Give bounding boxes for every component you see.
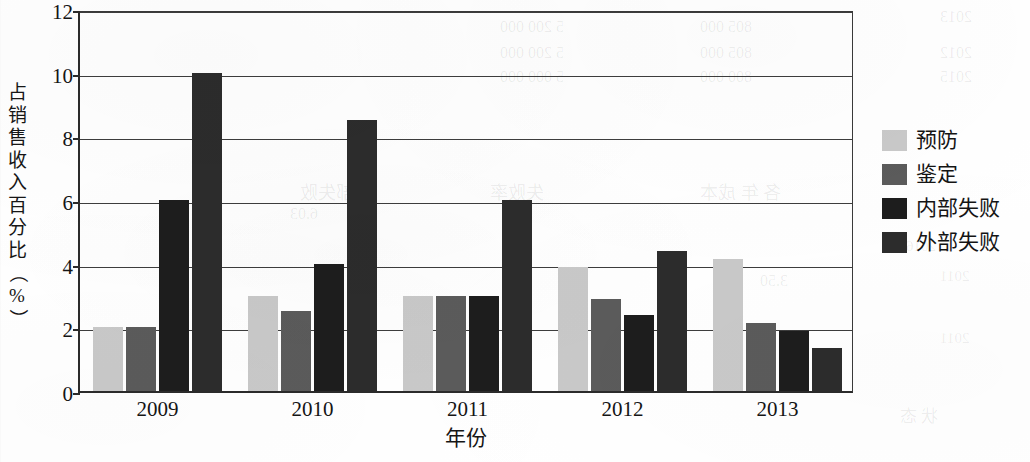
x-tick-label: 2009	[137, 399, 179, 420]
x-axis-title: 年份	[78, 428, 853, 449]
y-tick-mark	[73, 393, 80, 395]
y-tick-label: 10	[52, 65, 73, 86]
legend-swatch	[882, 232, 907, 253]
y-axis-title-char: （	[6, 258, 29, 288]
y-tick-label: 8	[63, 129, 74, 150]
bar	[436, 296, 467, 392]
bar	[713, 259, 744, 391]
y-axis-title-char: 销	[2, 105, 32, 128]
bar	[192, 73, 223, 391]
bar-chart-figure: 占销售收入百分比（%） 024681012 200920102011201220…	[0, 0, 1030, 462]
y-tick-label: 0	[63, 384, 74, 405]
y-tick-mark	[73, 202, 80, 204]
y-tick-mark	[73, 266, 80, 268]
plot-area: 024681012 20092010201120122013	[78, 11, 853, 393]
y-axis-title: 占销售收入百分比（%）	[2, 82, 32, 330]
legend-item: 内部失败	[882, 191, 1000, 225]
bar	[812, 348, 843, 391]
y-tick-label: 6	[63, 193, 74, 214]
bar	[159, 200, 190, 391]
bar-group	[93, 12, 223, 391]
bar	[347, 120, 378, 391]
y-axis-title-char: 分	[2, 217, 32, 240]
legend-label: 内部失败	[916, 198, 1000, 219]
bar	[558, 267, 589, 391]
y-axis-title-char: 收	[2, 150, 32, 173]
legend-label: 外部失败	[916, 232, 1000, 253]
bar	[248, 296, 279, 392]
legend-item: 预防	[882, 123, 1000, 157]
chart-legend: 预防鉴定内部失败外部失败	[882, 123, 1000, 259]
bar-group	[403, 12, 533, 391]
x-tick-label: 2013	[757, 399, 799, 420]
y-tick-label: 12	[52, 2, 73, 23]
y-tick-label: 2	[63, 320, 74, 341]
bar	[502, 200, 533, 391]
legend-item: 鉴定	[882, 157, 1000, 191]
y-tick-mark	[73, 75, 80, 77]
bar-group	[713, 12, 843, 391]
y-tick-mark	[73, 11, 80, 13]
y-tick-mark	[73, 138, 80, 140]
bar	[469, 296, 500, 392]
bar	[591, 299, 622, 391]
y-axis-title-char: 入	[2, 172, 32, 195]
bar	[281, 311, 312, 391]
y-axis-title-char: 售	[2, 127, 32, 150]
y-axis-title-char: 百	[2, 195, 32, 218]
bar	[93, 327, 124, 391]
bar	[624, 315, 655, 391]
y-axis-title-char: ）	[6, 303, 29, 333]
bar-group	[248, 12, 378, 391]
bar	[314, 264, 345, 391]
y-axis-title-char: 占	[2, 82, 32, 105]
legend-swatch	[882, 198, 907, 219]
bars-layer	[80, 12, 852, 391]
bar	[126, 327, 157, 391]
y-tick-mark	[73, 329, 80, 331]
bar	[403, 296, 434, 392]
bar-group	[558, 12, 688, 391]
bar	[779, 331, 810, 391]
legend-swatch	[882, 164, 907, 185]
legend-label: 鉴定	[916, 164, 958, 185]
legend-item: 外部失败	[882, 225, 1000, 259]
y-tick-label: 4	[63, 256, 74, 277]
bar	[657, 251, 688, 391]
x-tick-label: 2011	[447, 399, 488, 420]
x-tick-label: 2010	[292, 399, 334, 420]
bar	[746, 323, 777, 391]
legend-label: 预防	[916, 130, 958, 151]
legend-swatch	[882, 130, 907, 151]
x-tick-label: 2012	[602, 399, 644, 420]
